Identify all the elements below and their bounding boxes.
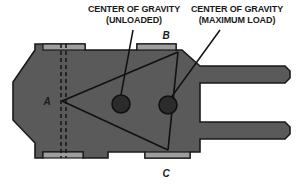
forklift-cg-diagram: CENTER OF GRAVITY (UNLOADED) CENTER OF G… [0,0,297,186]
forklift-body-outline [13,44,290,158]
top-pad-right [137,44,176,50]
cg-maximum-load-label-line1: CENTER OF GRAVITY [191,4,283,14]
cg-maximum-load-label-line2: (MAXIMUM LOAD) [199,15,276,25]
bottom-pad-right [145,152,190,158]
cg-unloaded-marker [112,95,130,113]
cg-unloaded-label-line2: (UNLOADED) [106,15,162,25]
bottom-pad-left [43,152,83,158]
diagram-canvas: CENTER OF GRAVITY (UNLOADED) CENTER OF G… [0,0,297,186]
point-label-a: A [42,96,50,107]
cg-max-load-marker [159,96,177,114]
top-pad-left [43,44,85,50]
point-label-c: C [162,168,170,179]
cg-unloaded-label-line1: CENTER OF GRAVITY [88,4,180,14]
point-label-b: B [162,30,169,41]
